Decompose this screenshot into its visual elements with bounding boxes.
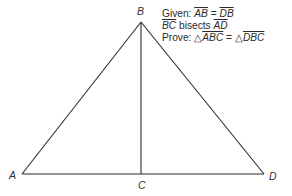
given-statement: Given: AB = DB (162, 8, 234, 20)
triangle-dbc-text: DBC (243, 32, 265, 43)
equals-sign: = (211, 8, 217, 19)
geometry-figure: B A C D (0, 0, 292, 196)
prove-label: Prove: (162, 32, 191, 43)
segment-db-text: DB (220, 8, 234, 19)
given-label: Given: (162, 8, 191, 19)
bisects-word: bisects (179, 20, 211, 31)
triangle-abc-text: ABC (202, 32, 223, 43)
segment-bd (141, 22, 264, 174)
vertex-label-b: B (137, 5, 144, 17)
vertex-label-d: D (269, 170, 277, 182)
segment-bc-text: BC (162, 20, 176, 31)
vertex-label-c: C (138, 179, 146, 191)
equals-sign-2: = (226, 32, 232, 43)
vertex-label-a: A (8, 169, 16, 181)
triangle-icon-2: △ (235, 32, 243, 43)
prove-statement: Prove: △ABC = △DBC (162, 32, 264, 44)
segment-ab (22, 22, 141, 174)
bisect-statement: BC bisects AD (162, 20, 228, 32)
segment-ab-text: AB (194, 8, 208, 19)
segment-ad-text: AD (214, 20, 228, 31)
